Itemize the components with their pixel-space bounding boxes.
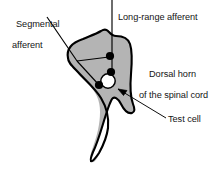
label-dorsal-horn-line1: Dorsal horn — [149, 69, 196, 79]
label-long-range-afferent: Long-range afferent — [118, 12, 198, 23]
label-dorsal-horn-line2: of the spinal cord — [139, 90, 208, 101]
label-segmental-afferent-line1: Segmental — [16, 19, 59, 29]
label-segmental-afferent: Segmental afferent — [6, 8, 60, 71]
segmental-afferent-terminal — [95, 81, 103, 89]
label-segmental-afferent-line2: afferent — [6, 40, 60, 51]
long-range-afferent-terminal-upper — [106, 52, 114, 60]
dorsal-horn-spinal-cord-diagram: Segmental afferent Long-range afferent D… — [0, 0, 216, 169]
dorsal-horn-gray-region — [68, 30, 135, 163]
label-test-cell: Test cell — [168, 114, 201, 125]
label-dorsal-horn: Dorsal horn of the spinal cord — [139, 58, 208, 121]
long-range-afferent-terminal-lower — [107, 68, 115, 76]
